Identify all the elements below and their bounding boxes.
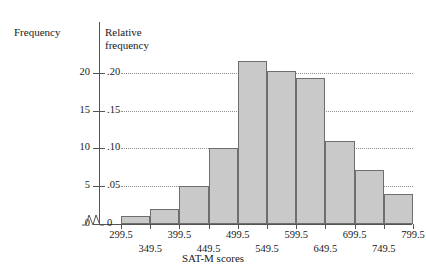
y-axis-label-frequency: 15	[66, 104, 90, 115]
relative-frequency-title-line2: frequency	[105, 39, 175, 52]
x-axis-label: 699.5	[333, 229, 377, 240]
y-tick-relative	[100, 186, 105, 187]
x-axis-label: 499.5	[216, 229, 260, 240]
y-axis-label-relative: .20	[107, 66, 133, 77]
histogram-bar	[355, 170, 384, 224]
y-axis-line	[99, 22, 100, 225]
histogram-figure: Frequency Relative frequency 005.0510.10…	[0, 0, 426, 273]
y-axis-label-relative: .10	[107, 141, 133, 152]
y-tick-frequency	[93, 148, 99, 149]
x-tick	[150, 224, 151, 229]
histogram-bar	[121, 216, 150, 224]
histogram-bar	[150, 209, 179, 224]
histogram-bar	[209, 148, 238, 224]
y-tick-relative	[100, 148, 105, 149]
histogram-bar	[384, 194, 413, 224]
y-axis-label-frequency: 5	[66, 179, 90, 190]
x-tick	[325, 224, 326, 229]
x-tick	[209, 224, 210, 229]
histogram-bar	[179, 186, 208, 224]
histogram-bar	[238, 61, 267, 224]
histogram-bar	[325, 141, 354, 224]
y-tick-frequency	[93, 111, 99, 112]
axis-break-icon	[82, 212, 104, 226]
histogram-bar	[267, 71, 296, 224]
x-axis-title: SAT-M scores	[0, 252, 426, 264]
x-tick	[267, 224, 268, 229]
frequency-axis-title-text: Frequency	[14, 26, 60, 38]
x-axis-label: 299.5	[99, 229, 143, 240]
y-tick-relative	[100, 73, 105, 74]
x-axis-line	[99, 224, 412, 225]
y-tick-frequency	[93, 186, 99, 187]
relative-frequency-title-line1: Relative	[105, 26, 175, 39]
x-tick	[384, 224, 385, 229]
y-axis-label-frequency: 10	[66, 141, 90, 152]
y-axis-label-relative: .15	[107, 104, 133, 115]
relative-frequency-axis-title: Relative frequency	[105, 26, 175, 52]
y-axis-label-frequency: 20	[66, 66, 90, 77]
y-axis-label-relative: .05	[107, 179, 133, 190]
y-tick-frequency	[93, 73, 99, 74]
x-axis-label: 599.5	[274, 229, 318, 240]
x-axis-label: 799.5	[391, 229, 426, 240]
frequency-axis-title: Frequency	[14, 26, 100, 39]
y-tick-relative	[100, 111, 105, 112]
x-axis-label: 399.5	[157, 229, 201, 240]
histogram-bar	[296, 78, 325, 224]
